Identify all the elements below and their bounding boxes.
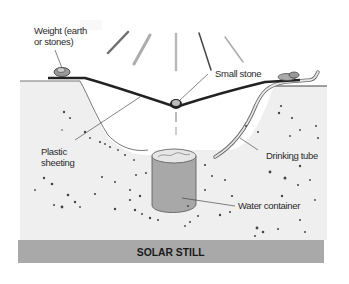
label-plastic-sheeting: Plastic sheeting: [41, 146, 75, 168]
sun-rays-icon: [80, 25, 243, 70]
weight-stones-left-icon: [54, 68, 70, 77]
label-drinking-tube: Drinking tube: [266, 150, 318, 161]
label-small-stone: Small stone: [215, 68, 261, 79]
label-water-container: Water container: [238, 200, 300, 211]
label-weight-line1: Weight (earth: [34, 25, 87, 36]
small-stone-icon: [170, 99, 182, 109]
label-weight: Weight (earth or stones): [34, 25, 87, 47]
label-weight-line2: or stones): [34, 36, 87, 47]
water-container-icon: [152, 149, 196, 213]
diagram-title: SOLAR STILL: [137, 246, 205, 258]
title-banner: SOLAR STILL: [18, 240, 324, 263]
label-plastic-line2: sheeting: [41, 157, 75, 168]
label-plastic-line1: Plastic: [41, 146, 75, 157]
